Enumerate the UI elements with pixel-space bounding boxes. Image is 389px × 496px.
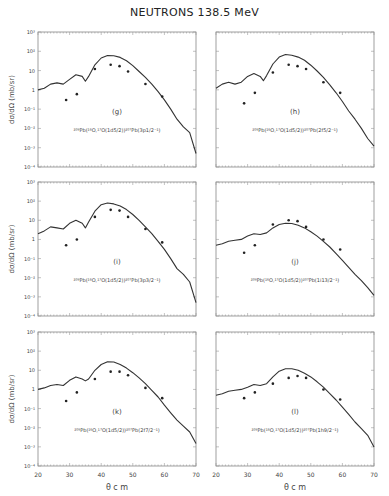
panel-label: (j) <box>291 258 299 266</box>
figure-canvas: 10³10²10110⁻¹10⁻²10⁻³10⁻⁴dσ/dΩ (mb/sr)(g… <box>0 0 389 496</box>
x-tick-label: 20 <box>34 471 42 478</box>
y-tick-label: 10⁻¹ <box>24 406 35 412</box>
y-tick-label: 10² <box>27 348 35 354</box>
data-point <box>94 378 97 381</box>
x-axis-label: θ c m <box>284 483 306 492</box>
data-point <box>287 63 290 66</box>
x-axis-label: θ c m <box>106 483 128 492</box>
reaction-annotation: ²⁰⁸Pb(¹⁶O,¹⁷O(1d5/2))²⁰⁷Pb(3p3/2⁻¹) <box>73 277 160 284</box>
data-point <box>272 223 275 226</box>
data-point <box>305 68 308 71</box>
data-point <box>109 209 112 212</box>
data-point <box>254 391 257 394</box>
y-tick-label: 10⁻⁴ <box>24 164 35 170</box>
data-point <box>272 71 275 74</box>
theory-curve <box>38 203 196 303</box>
data-point <box>65 400 68 403</box>
data-point <box>287 377 290 380</box>
y-tick-label: 10³ <box>27 179 35 185</box>
x-tick-label: 30 <box>66 471 74 478</box>
x-tick-label: 40 <box>97 471 105 478</box>
data-point <box>254 92 257 95</box>
reaction-annotation: ²⁰⁸Pb(¹⁶O,¹⁷O(1d5/2))²⁰⁷Pb(2f5/2⁻¹) <box>252 127 338 133</box>
chart-panel-g: 10³10²10110⁻¹10⁻²10⁻³10⁻⁴dσ/dΩ (mb/sr)(g… <box>8 29 196 170</box>
data-point <box>305 226 308 229</box>
y-tick-label: 1 <box>32 236 35 242</box>
plot-frame <box>38 32 196 167</box>
panel-label: (l) <box>291 408 299 416</box>
y-tick-label: 10 <box>29 367 35 373</box>
theory-curve <box>38 56 196 154</box>
x-tick-label: 60 <box>161 471 169 478</box>
data-point <box>161 241 164 244</box>
data-point <box>118 65 121 68</box>
x-tick-label: 70 <box>192 471 200 478</box>
plot-frame <box>216 32 374 167</box>
data-point <box>243 102 246 105</box>
x-tick-label: 20 <box>212 471 220 478</box>
data-point <box>127 216 130 219</box>
panel-label: (h) <box>290 108 300 116</box>
data-point <box>144 83 147 86</box>
y-tick-label: 10⁻⁴ <box>24 313 35 319</box>
data-point <box>243 397 246 400</box>
data-point <box>65 99 68 102</box>
y-tick-label: 10⁻³ <box>24 294 35 300</box>
chart-panel-i: 10³10²10110⁻¹10⁻²10⁻³10⁻⁴dσ/dΩ (mb/sr)(i… <box>8 179 196 319</box>
y-tick-label: 10⁻¹ <box>24 256 35 262</box>
data-point <box>144 228 147 231</box>
y-tick-label: 10⁻² <box>24 125 35 131</box>
data-point <box>76 93 79 96</box>
data-point <box>322 238 325 241</box>
x-tick-label: 60 <box>339 471 347 478</box>
y-tick-label: 1 <box>32 87 35 93</box>
data-point <box>339 92 342 95</box>
panel-label: (i) <box>113 258 121 266</box>
x-tick-label: 40 <box>275 471 283 478</box>
y-tick-label: 10⁻³ <box>24 145 35 151</box>
plot-frame <box>38 332 196 466</box>
x-tick-label: 70 <box>370 471 378 478</box>
chart-panel-h: (h)²⁰⁸Pb(¹⁶O,¹⁷O(1d5/2))²⁰⁷Pb(2f5/2⁻¹) <box>216 32 374 167</box>
panel-label: (g) <box>112 108 122 116</box>
y-tick-label: 10⁻¹ <box>24 106 35 112</box>
reaction-annotation: ²⁰⁸Pb(¹⁶O,¹⁷O(1d5/2))²⁰⁷Pb(2f7/2⁻¹) <box>74 427 160 433</box>
x-tick-label: 50 <box>307 471 315 478</box>
data-point <box>161 95 164 98</box>
data-point <box>296 220 299 223</box>
data-point <box>296 65 299 68</box>
panel-label: (k) <box>112 408 122 416</box>
reaction-annotation: ²⁰⁸Pb(¹⁶O,¹⁷O(1d5/2))²⁰⁷Pb(3p1/2⁻¹) <box>73 127 160 134</box>
chart-panel-j: (j)²⁰⁸Pb(¹⁶O,¹⁷O(1d5/2))²⁰⁷Pb(1i13/2⁻¹) <box>216 182 374 316</box>
data-point <box>144 387 147 390</box>
reaction-annotation: ²⁰⁸Pb(¹⁶O,¹⁷O(1d5/2))²⁰⁷Pb(1i13/2⁻¹) <box>251 277 339 283</box>
data-point <box>322 81 325 84</box>
data-point <box>305 377 308 380</box>
data-point <box>272 382 275 385</box>
plot-frame <box>216 332 374 466</box>
y-tick-label: 1 <box>32 386 35 392</box>
data-point <box>287 219 290 222</box>
plot-frame <box>216 182 374 316</box>
data-point <box>322 388 325 391</box>
x-tick-label: 30 <box>244 471 252 478</box>
plot-frame <box>38 182 196 316</box>
data-point <box>339 398 342 401</box>
data-point <box>339 248 342 251</box>
data-point <box>254 244 257 247</box>
data-point <box>76 391 79 394</box>
data-point <box>118 209 121 212</box>
y-tick-label: 10 <box>29 68 35 74</box>
y-tick-label: 10² <box>27 198 35 204</box>
y-tick-label: 10³ <box>27 329 35 335</box>
reaction-annotation: ²⁰⁸Pb(¹⁶O,¹⁷O(1d5/2))²⁰⁷Pb(1h9/2⁻¹) <box>251 427 338 433</box>
chart-panel-k: 10³10²10110⁻¹10⁻²10⁻³10⁻⁴203040506070θ c… <box>8 329 200 492</box>
data-point <box>127 70 130 73</box>
x-tick-label: 50 <box>129 471 137 478</box>
data-point <box>243 252 246 255</box>
y-tick-label: 10⁻⁴ <box>24 463 35 469</box>
data-point <box>76 238 79 241</box>
data-point <box>296 375 299 378</box>
data-point <box>94 216 97 219</box>
data-point <box>127 374 130 377</box>
